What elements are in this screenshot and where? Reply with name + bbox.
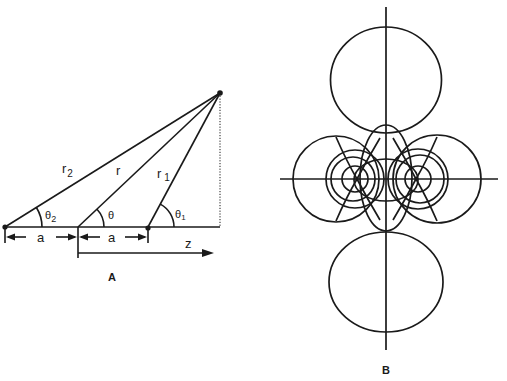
arrowhead-a-left-start bbox=[6, 234, 15, 241]
arrowhead-a-left-end bbox=[68, 234, 77, 241]
panel-b bbox=[280, 7, 498, 350]
label-theta: θ bbox=[108, 209, 114, 221]
right-focus-point bbox=[414, 177, 418, 181]
angle-arc-theta bbox=[97, 209, 104, 227]
source-point-left bbox=[2, 224, 7, 229]
label-z: z bbox=[185, 236, 192, 251]
label-r2: r2 bbox=[62, 161, 73, 179]
panel-b-label: B bbox=[382, 364, 390, 376]
source-point-right bbox=[145, 225, 150, 230]
arrowhead-a-right-end bbox=[138, 234, 147, 241]
label-theta2: θ2 bbox=[45, 209, 56, 224]
arrowhead-a-right-start bbox=[79, 234, 88, 241]
label-r: r bbox=[116, 163, 121, 178]
label-r1: r1 bbox=[157, 166, 170, 183]
label-a-right: a bbox=[108, 230, 116, 245]
arrowhead-z bbox=[202, 249, 214, 257]
left-focus-point bbox=[355, 177, 359, 181]
angle-arc-theta1 bbox=[160, 204, 174, 227]
line-r1 bbox=[148, 93, 220, 227]
line-r bbox=[78, 93, 220, 227]
figure-canvas: r2 r r1 θ2 θ θ1 a a z A bbox=[0, 0, 507, 381]
angle-arc-theta2 bbox=[36, 208, 42, 228]
label-theta1: θ1 bbox=[175, 208, 186, 222]
label-a-left: a bbox=[37, 230, 45, 245]
line-r2 bbox=[5, 93, 220, 227]
panel-a-label: A bbox=[108, 271, 116, 283]
field-point bbox=[217, 90, 223, 96]
